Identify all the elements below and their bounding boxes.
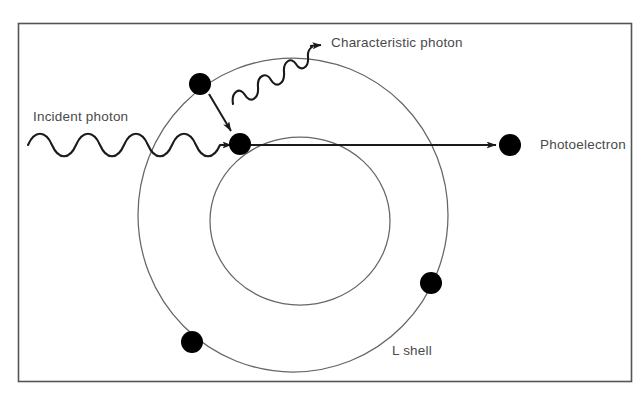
electron-dot-l-shell-transitioning — [189, 73, 211, 95]
electron-transition-arrow — [209, 94, 231, 131]
electron-dot-ejected-photoelectron — [499, 134, 521, 156]
characteristic-photon-arrowhead — [310, 45, 321, 46]
characteristic-photon-label: Characteristic photon — [331, 36, 463, 50]
characteristic-photon-wave — [233, 47, 312, 104]
incident-photon-wave — [28, 134, 220, 157]
electron-dot-l-shell-right — [420, 272, 442, 294]
photoelectron-label: Photoelectron — [540, 138, 626, 152]
incident-photon-label: Incident photon — [33, 110, 128, 124]
diagram-canvas — [0, 0, 644, 403]
k-shell-orbit — [210, 137, 390, 305]
l-shell-label: L shell — [392, 344, 432, 358]
electron-dot-k-shell-vacancy — [229, 133, 251, 155]
photoelectric-effect-diagram: Incident photon Characteristic photon Ph… — [0, 0, 644, 403]
figure-frame-border — [19, 24, 632, 382]
l-shell-orbit — [138, 58, 448, 372]
electron-dot-l-shell-lower-left — [181, 331, 203, 353]
